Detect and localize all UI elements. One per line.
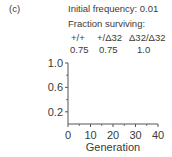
x-tick-label: 20 (107, 129, 119, 141)
chart: 0.20.61.0010203040 Generation (0, 0, 172, 157)
y-tick-label: 0.2 (48, 106, 63, 118)
x-tick-label: 30 (129, 129, 141, 141)
x-tick-label: 0 (65, 129, 71, 141)
y-tick-label: 0.6 (48, 81, 63, 93)
y-tick-label: 1.0 (48, 57, 63, 69)
x-tick-label: 10 (84, 129, 96, 141)
x-axis-label: Generation (86, 141, 140, 153)
x-tick-label: 40 (152, 129, 164, 141)
